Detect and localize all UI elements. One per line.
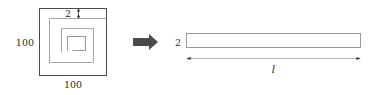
spiral-ring-inner (68, 37, 86, 51)
transform-arrow-icon (133, 34, 158, 50)
label-square-height: 100 (16, 37, 34, 48)
strip-length-dimension (186, 57, 361, 60)
unrolled-strip-rect (187, 34, 361, 48)
left-diagram-group: 2 100 100 (16, 8, 107, 90)
transform-arrow (133, 34, 158, 50)
strip-width-dimension-left (77, 9, 80, 19)
label-strip-width-right: 2 (175, 37, 181, 48)
geometry-figure: 2 100 100 2 l (0, 0, 380, 95)
label-strip-width-left: 2 (65, 8, 71, 19)
label-strip-length: l (272, 63, 275, 75)
right-diagram-group: 2 l (175, 34, 361, 76)
spiral-ring-outer (50, 19, 107, 63)
figure-canvas: 2 100 100 2 l (0, 0, 380, 95)
label-square-width: 100 (64, 79, 82, 90)
